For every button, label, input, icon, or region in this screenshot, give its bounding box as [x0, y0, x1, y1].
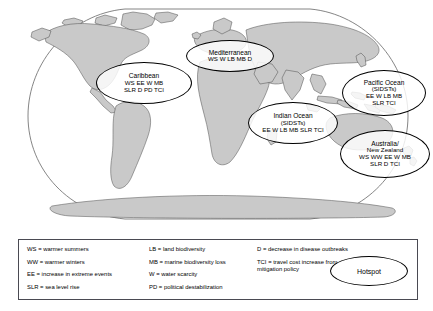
legend-column-1: WS = warmer summers WW = warmer winters …	[27, 246, 149, 296]
hotspot-mediterranean-codes-1: WS W LB MB D	[208, 56, 252, 63]
hotspot-indian-ocean[interactable]: Indian Ocean (SIDSTs) EE W LB MB SLR TCI	[248, 102, 338, 144]
legend-item: PD = political destabilization	[149, 284, 257, 297]
legend-box: WS = warmer summers WW = warmer winters …	[18, 239, 418, 300]
world-map-svg	[0, 0, 433, 232]
world-map: Caribbean WS EE W MB SLR D PD TCI Medite…	[0, 0, 433, 232]
legend-item: W = water scarcity	[149, 271, 257, 284]
legend-item: WW = warmer winters	[27, 259, 149, 272]
legend-item: MB = marine biodiversity loss	[149, 259, 257, 272]
legend-hotspot-label: Hotspot	[357, 268, 381, 275]
legend-item: SLR = sea level rise	[27, 284, 149, 297]
hotspot-pacific-ocean-codes-2: SLR TCI	[372, 100, 396, 107]
hotspot-caribbean[interactable]: Caribbean WS EE W MB SLR D PD TCI	[96, 62, 192, 104]
legend-item: EE = increase in extreme events	[27, 271, 149, 284]
hotspot-caribbean-codes-2: SLR D PD TCI	[124, 87, 164, 94]
figure-root: Caribbean WS EE W MB SLR D PD TCI Medite…	[0, 0, 433, 311]
hotspot-australia-codes-2: SLR D TCI	[370, 161, 400, 168]
legend-item: LB = land biodiversity	[149, 246, 257, 259]
legend-column-2: LB = land biodiversity MB = marine biodi…	[149, 246, 257, 296]
legend-columns: WS = warmer summers WW = warmer winters …	[27, 246, 375, 296]
hotspot-pacific-ocean[interactable]: Pacific Ocean (SIDSTs) EE W LB MB SLR TC…	[342, 70, 426, 116]
hotspot-mediterranean[interactable]: Mediterranean WS W LB MB D	[186, 40, 274, 72]
legend-item: WS = warmer summers	[27, 246, 149, 259]
hotspot-australia-new-zealand[interactable]: Australia/ New Zealand WS WW EE W MB SLR…	[340, 130, 430, 178]
hotspot-indian-ocean-codes-1: EE W LB MB SLR TCI	[262, 127, 323, 134]
legend-hotspot-symbol: Hotspot	[330, 256, 408, 286]
